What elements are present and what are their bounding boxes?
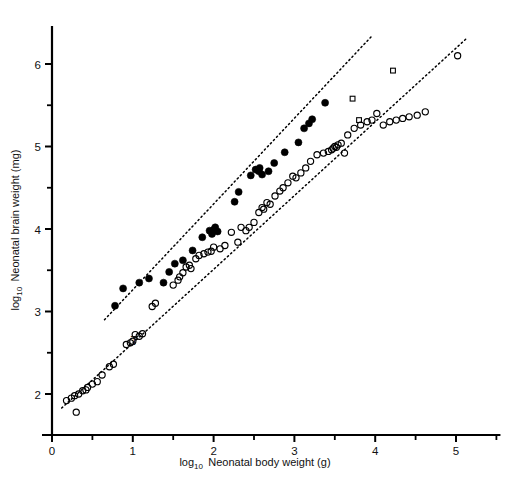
filled-circle-marker xyxy=(309,116,316,123)
y-tick-label: 3 xyxy=(35,306,41,318)
filled-circle-marker xyxy=(136,279,143,286)
filled-circle-marker xyxy=(247,172,254,179)
y-tick-label: 6 xyxy=(35,59,41,71)
filled-circle-marker xyxy=(199,234,206,241)
filled-circle-marker xyxy=(145,275,152,282)
filled-circle-marker xyxy=(166,268,173,275)
y-tick-label: 2 xyxy=(35,389,41,401)
annotation-label-t: T xyxy=(131,334,139,348)
figure-background xyxy=(0,0,515,485)
filled-circle-marker xyxy=(160,279,167,286)
filled-circle-marker xyxy=(214,228,221,235)
filled-circle-marker xyxy=(322,99,329,106)
filled-circle-marker xyxy=(271,160,278,167)
x-tick-label: 5 xyxy=(453,445,459,457)
filled-circle-marker xyxy=(265,168,272,175)
filled-circle-marker xyxy=(256,164,263,171)
filled-circle-marker xyxy=(295,139,302,146)
filled-circle-marker xyxy=(112,302,119,309)
filled-circle-marker xyxy=(179,257,186,264)
filled-circle-marker xyxy=(120,285,127,292)
x-tick-label: 4 xyxy=(372,445,379,457)
filled-circle-marker xyxy=(189,247,196,254)
x-tick-label: 0 xyxy=(49,445,55,457)
filled-circle-marker xyxy=(231,198,238,205)
x-tick-label: 1 xyxy=(130,445,136,457)
filled-circle-marker xyxy=(235,188,242,195)
filled-circle-marker xyxy=(281,149,288,156)
y-tick-label: 5 xyxy=(35,141,41,153)
scatter-plot-figure: 23456 012345 T log10 Neonatal body weigh… xyxy=(0,0,515,485)
filled-circle-marker xyxy=(259,171,266,178)
y-tick-label: 4 xyxy=(35,224,42,236)
point-annotations: T xyxy=(131,334,139,348)
plot-canvas: 23456 012345 T log10 Neonatal body weigh… xyxy=(0,0,515,485)
filled-circle-marker xyxy=(171,260,178,267)
